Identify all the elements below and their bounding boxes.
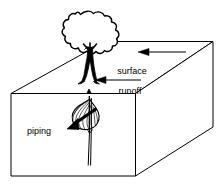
surface-runoff-label-line2: runoff — [101, 86, 153, 96]
soil-block-diagram: surface runoff piping — [0, 0, 222, 189]
surface-runoff-label-line1: surface — [117, 66, 147, 76]
surface-runoff-label: surface runoff — [101, 56, 153, 116]
piping-label: piping — [27, 126, 51, 136]
